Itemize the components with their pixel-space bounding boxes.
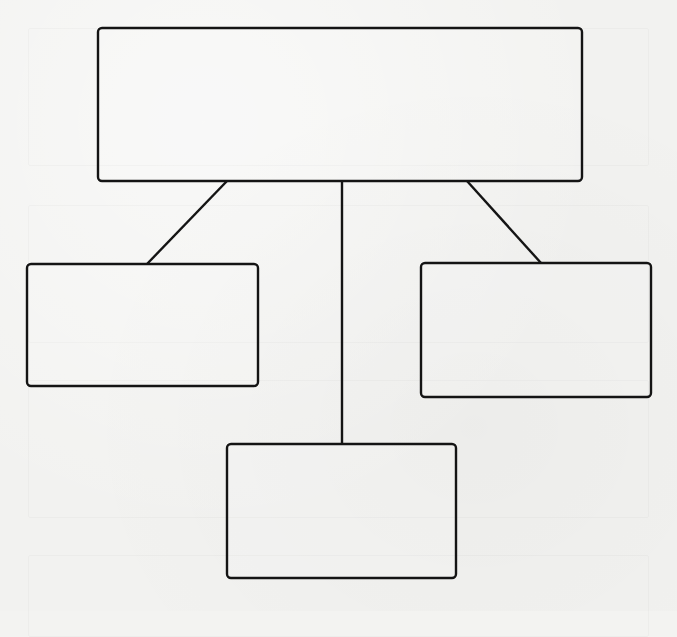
left-child-box[interactable] xyxy=(27,264,258,386)
node-root[interactable] xyxy=(98,28,582,181)
node-right-child[interactable] xyxy=(421,263,651,397)
nodes xyxy=(27,28,651,578)
node-left-child[interactable] xyxy=(27,264,258,386)
right-child-box[interactable] xyxy=(421,263,651,397)
edge-root-to-right xyxy=(467,181,541,263)
edge-root-to-left xyxy=(147,181,227,264)
node-center-child[interactable] xyxy=(227,444,456,578)
center-child-box[interactable] xyxy=(227,444,456,578)
root-box[interactable] xyxy=(98,28,582,181)
